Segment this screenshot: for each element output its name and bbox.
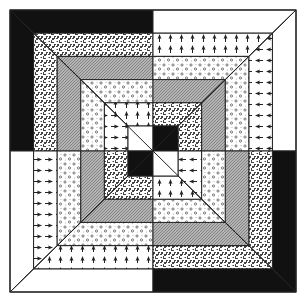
patch-top-left-ring-1-h — [10, 10, 153, 33]
quilt-block — [0, 0, 306, 296]
patch-bottom-left-ring-1-v — [10, 151, 34, 292]
patch-top-right-ring-1-h — [153, 10, 296, 33]
patch-bottom-right-ring-1-v — [272, 151, 296, 292]
quilt-layer — [10, 10, 296, 292]
patch-top-left-ring-1-v — [10, 10, 34, 151]
patch-bottom-right-ring-1-h — [153, 269, 296, 292]
patch-top-right-ring-1-v — [272, 10, 296, 151]
patch-bottom-left-ring-1-h — [10, 269, 153, 292]
